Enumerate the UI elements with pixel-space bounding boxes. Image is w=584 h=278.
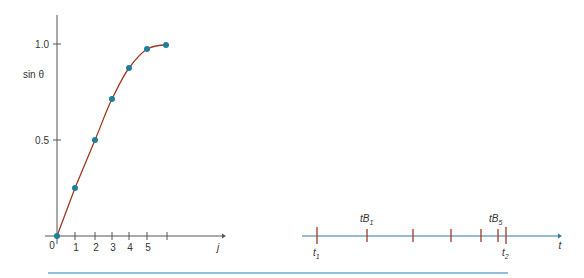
t-axis-label: t bbox=[559, 240, 563, 251]
y-axis-label: sin θ bbox=[23, 69, 45, 80]
x-tick-label: 5 bbox=[145, 242, 151, 253]
x-tick-label: 0 bbox=[49, 240, 55, 251]
sin-curve bbox=[57, 45, 166, 236]
data-points bbox=[54, 42, 169, 239]
data-point bbox=[109, 96, 115, 102]
y-tick-label: 0.5 bbox=[35, 135, 49, 146]
x-tick-label: 3 bbox=[110, 242, 116, 253]
label-tB1: tB1 bbox=[360, 213, 373, 226]
label-t1: t1 bbox=[313, 247, 320, 260]
label-tB5: tB5 bbox=[489, 213, 502, 226]
x-tick-label: 2 bbox=[93, 242, 99, 253]
data-point bbox=[163, 42, 169, 48]
time-number-line: t1 tB1 tB5 t2 t bbox=[302, 213, 563, 260]
x-axis-label: j bbox=[215, 242, 220, 253]
data-point bbox=[72, 185, 78, 191]
label-t2: t2 bbox=[502, 247, 509, 260]
x-tick-label: 1 bbox=[73, 242, 79, 253]
data-point bbox=[54, 233, 60, 239]
sin-theta-chart: 1.0 0.5 sin θ 0 1 2 3 4 5 j bbox=[23, 15, 226, 253]
y-tick-label: 1.0 bbox=[35, 39, 49, 50]
data-point bbox=[126, 65, 132, 71]
x-tick-label: 4 bbox=[127, 242, 133, 253]
t-axis-arrow-icon bbox=[558, 234, 562, 239]
figure: 1.0 0.5 sin θ 0 1 2 3 4 5 j bbox=[0, 0, 584, 278]
x-axis-arrow-icon bbox=[222, 234, 226, 239]
data-point bbox=[144, 46, 150, 52]
data-point bbox=[92, 137, 98, 143]
